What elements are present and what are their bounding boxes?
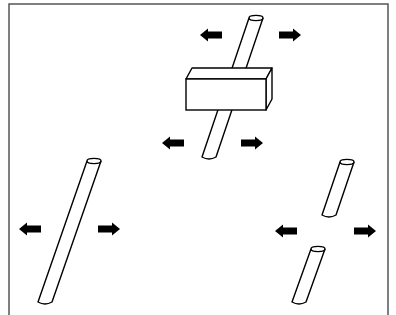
panel-broken-rod xyxy=(275,159,376,304)
rod-body xyxy=(322,162,354,217)
block xyxy=(186,68,272,110)
arrow-right-icon xyxy=(98,223,120,236)
block-top-face xyxy=(186,68,272,79)
arrow-left-icon xyxy=(275,225,297,238)
rod-top-cap xyxy=(311,246,325,251)
arrow-left-icon xyxy=(162,137,184,150)
arrow-right-icon xyxy=(354,225,376,238)
rod xyxy=(38,158,101,304)
rod-piece-2 xyxy=(292,246,325,304)
rod-top-cap xyxy=(87,158,101,163)
block-front-face xyxy=(186,79,266,110)
arrow-left-icon xyxy=(19,223,41,236)
diagram-canvas xyxy=(0,0,396,315)
frame-border xyxy=(9,4,388,315)
rod-top-cap xyxy=(249,15,263,20)
arrow-right-icon xyxy=(279,29,301,42)
panel-intact-rod xyxy=(19,158,120,304)
rod-body xyxy=(292,249,325,304)
rod-top-cap xyxy=(340,159,354,164)
arrow-right-icon xyxy=(241,137,263,150)
rod-piece-1 xyxy=(322,159,354,217)
arrow-left-icon xyxy=(200,29,222,42)
rod-body xyxy=(38,161,101,304)
panel-rod-through-block xyxy=(162,15,301,159)
